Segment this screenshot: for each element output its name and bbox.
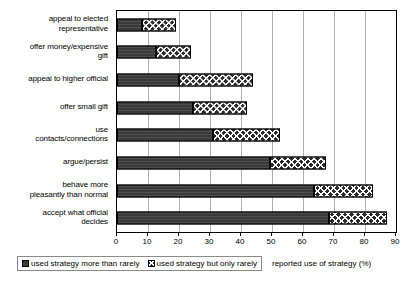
- category-label-line: contacts/connections: [0, 134, 108, 144]
- category-label-line: accept what official: [0, 208, 108, 218]
- legend-entry: used strategy more than rarely: [22, 259, 140, 268]
- bar-row: [117, 122, 396, 150]
- legend-label: used strategy more than rarely: [31, 259, 140, 268]
- x-axis-tick: [395, 232, 396, 236]
- bar-segment-more-than-rarely: [117, 18, 142, 31]
- solid-dark-swatch: [22, 260, 29, 267]
- bar-segment-only-rarely: [193, 101, 247, 114]
- bar-segment-more-than-rarely: [117, 129, 213, 142]
- category-label-line: offer money/expensive: [0, 42, 108, 52]
- plot-area: [116, 10, 397, 233]
- bar-segment-more-than-rarely: [117, 46, 156, 59]
- bar-segment-only-rarely: [142, 18, 176, 31]
- x-axis-title: reported use of strategy (%): [272, 259, 371, 269]
- x-axis-tick: [364, 232, 365, 236]
- stacked-bar-chart: appeal to electedrepresentativeoffer mon…: [0, 0, 411, 284]
- category-label: appeal to higher official: [0, 74, 108, 84]
- bar-segment-only-rarely: [156, 46, 192, 59]
- bar-segment-only-rarely: [329, 212, 386, 225]
- category-axis-labels: appeal to electedrepresentativeoffer mon…: [0, 10, 112, 231]
- x-axis-tick-label: 20: [167, 237, 189, 247]
- category-label-line: pleasantly than normal: [0, 190, 108, 200]
- category-label: behave morepleasantly than normal: [0, 180, 108, 199]
- chart-legend: used strategy more than rarelyused strat…: [17, 256, 262, 271]
- bar-row: [117, 149, 396, 177]
- checkerboard-swatch: [148, 260, 155, 267]
- category-label-line: decides: [0, 217, 108, 227]
- category-label: accept what officialdecides: [0, 208, 108, 227]
- x-axis-tick: [209, 232, 210, 236]
- legend-entry: used strategy but only rarely: [148, 259, 258, 268]
- bar-segment-more-than-rarely: [117, 74, 179, 87]
- category-label-line: appeal to higher official: [0, 74, 108, 84]
- bar-segment-only-rarely: [213, 129, 280, 142]
- x-axis-tick-label: 90: [384, 237, 406, 247]
- x-axis-tick-label: 80: [353, 237, 375, 247]
- x-axis-tick-label: 70: [322, 237, 344, 247]
- bar-segment-more-than-rarely: [117, 101, 193, 114]
- bar-segment-more-than-rarely: [117, 184, 314, 197]
- x-axis-tick-label: 50: [260, 237, 282, 247]
- category-label-line: representative: [0, 24, 108, 34]
- bar-segment-only-rarely: [179, 74, 253, 87]
- x-axis-tick: [302, 232, 303, 236]
- bar-row: [117, 39, 396, 67]
- category-label-line: use: [0, 125, 108, 135]
- bar-segment-more-than-rarely: [117, 156, 270, 169]
- category-label-line: appeal to elected: [0, 14, 108, 24]
- bar-row: [117, 94, 396, 122]
- bar-row: [117, 204, 396, 232]
- x-axis-tick: [178, 232, 179, 236]
- x-axis-tick-label: 0: [105, 237, 127, 247]
- x-axis-tick-label: 10: [136, 237, 158, 247]
- category-label: appeal to electedrepresentative: [0, 14, 108, 33]
- x-axis-tick: [333, 232, 334, 236]
- category-label: argue/persist: [0, 157, 108, 167]
- bar-row: [117, 66, 396, 94]
- bar-row: [117, 11, 396, 39]
- x-axis-tick: [147, 232, 148, 236]
- x-axis-tick: [271, 232, 272, 236]
- category-label: offer small gift: [0, 102, 108, 112]
- bar-segment-only-rarely: [314, 184, 373, 197]
- x-axis-tick-label: 30: [198, 237, 220, 247]
- category-label-line: behave more: [0, 180, 108, 190]
- category-label-line: offer small gift: [0, 102, 108, 112]
- x-axis-tick: [116, 232, 117, 236]
- legend-label: used strategy but only rarely: [157, 259, 258, 268]
- bar-segment-more-than-rarely: [117, 212, 329, 225]
- x-axis-tick-label: 40: [229, 237, 251, 247]
- category-label: usecontacts/connections: [0, 125, 108, 144]
- category-label-line: argue/persist: [0, 157, 108, 167]
- bar-row: [117, 177, 396, 205]
- category-label: offer money/expensivegift: [0, 42, 108, 61]
- bar-segment-only-rarely: [270, 156, 326, 169]
- category-label-line: gift: [0, 51, 108, 61]
- x-axis-tick: [240, 232, 241, 236]
- x-axis: 0102030405060708090: [116, 232, 397, 250]
- x-axis-tick-label: 60: [291, 237, 313, 247]
